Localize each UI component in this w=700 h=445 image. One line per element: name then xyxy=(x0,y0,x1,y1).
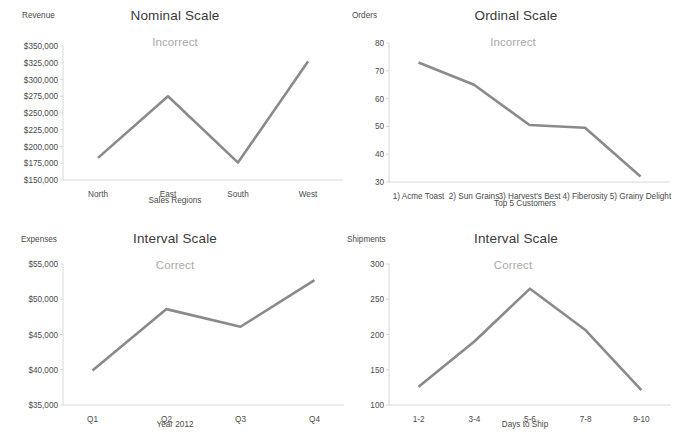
y-axis-tick-label: 80 xyxy=(356,39,384,48)
y-axis-tick-label: $55,000 xyxy=(6,260,58,269)
y-axis-tick-label: 30 xyxy=(356,178,384,187)
x-axis-tick-label: East xyxy=(160,190,176,199)
y-axis-tick-label: 50 xyxy=(356,122,384,131)
y-axis-tick-label: $300,000 xyxy=(6,75,58,84)
x-axis-tick-label: 1) Acme Toast xyxy=(393,192,445,201)
x-axis-tick-label: 4) Fiberosity xyxy=(562,192,607,201)
y-axis-tick-label: 70 xyxy=(356,66,384,75)
chart-svg xyxy=(63,264,344,405)
y-axis-tick-label: $250,000 xyxy=(6,109,58,118)
x-axis-tick-label: 5) Grainy Delight xyxy=(610,192,671,201)
x-axis-tick-label: 3) Harvest's Best xyxy=(498,192,560,201)
y-axis-tick-label: $175,000 xyxy=(6,159,58,168)
chart-panel-nominal-scale: Nominal Scale Incorrect Revenue Sales Re… xyxy=(0,0,350,222)
x-axis-tick-label: North xyxy=(88,190,108,199)
x-axis-tick-label: Q4 xyxy=(309,415,320,424)
x-axis-title: Year 2012 xyxy=(0,420,350,429)
y-axis-tick-label: 100 xyxy=(356,401,384,410)
chart-svg xyxy=(389,264,671,405)
chart-title: Interval Scale xyxy=(332,231,700,246)
x-axis-tick-label: South xyxy=(227,190,248,199)
chart-title: Ordinal Scale xyxy=(332,8,700,23)
y-axis-tick-label: $50,000 xyxy=(6,295,58,304)
y-axis-tick-label: $225,000 xyxy=(6,125,58,134)
x-axis-tick-label: West xyxy=(299,190,318,199)
chart-svg xyxy=(63,46,343,180)
x-axis-tick-label: 5-6 xyxy=(524,415,536,424)
x-axis-tick-label: 9-10 xyxy=(633,415,649,424)
data-series-line xyxy=(93,280,315,370)
y-axis-tick-label: $35,000 xyxy=(6,401,58,410)
y-axis-title: Shipments xyxy=(347,235,386,244)
x-axis-tick-label: 2) Sun Grains xyxy=(449,192,500,201)
y-axis-tick-label: 150 xyxy=(356,365,384,374)
y-axis-tick-label: 300 xyxy=(356,260,384,269)
plot-area xyxy=(389,43,670,182)
y-axis-tick-label: 250 xyxy=(356,295,384,304)
data-series-line xyxy=(98,61,308,162)
plot-area xyxy=(389,264,671,405)
y-axis-tick-label: $325,000 xyxy=(6,58,58,67)
y-axis-title: Expenses xyxy=(21,235,57,244)
x-axis-tick-label: 7-8 xyxy=(580,415,592,424)
chart-svg xyxy=(389,43,670,182)
y-axis-tick-label: $150,000 xyxy=(6,176,58,185)
y-axis-tick-label: $45,000 xyxy=(6,330,58,339)
y-axis-tick-label: 60 xyxy=(356,94,384,103)
data-series-line xyxy=(419,62,641,176)
y-axis-tick-label: $200,000 xyxy=(6,142,58,151)
chart-grid: Nominal Scale Incorrect Revenue Sales Re… xyxy=(0,0,700,445)
chart-panel-ordinal-scale: Ordinal Scale Incorrect Orders Top 5 Cus… xyxy=(350,0,700,222)
y-axis-title: Orders xyxy=(352,11,377,20)
x-axis-tick-label: Q1 xyxy=(87,415,98,424)
chart-panel-interval-scale-shipments: Interval Scale Correct Shipments Days to… xyxy=(350,223,700,445)
y-axis-tick-label: 40 xyxy=(356,150,384,159)
y-axis-tick-label: 200 xyxy=(356,330,384,339)
y-axis-title: Revenue xyxy=(22,11,55,20)
y-axis-tick-label: $350,000 xyxy=(6,42,58,51)
plot-area xyxy=(63,264,344,405)
plot-area xyxy=(63,46,343,180)
x-axis-tick-label: Q3 xyxy=(235,415,246,424)
x-axis-tick-label: 3-4 xyxy=(468,415,480,424)
y-axis-tick-label: $40,000 xyxy=(6,365,58,374)
data-series-line xyxy=(419,289,642,391)
chart-panel-interval-scale-expenses: Interval Scale Correct Expenses Year 201… xyxy=(0,223,350,445)
y-axis-tick-label: $275,000 xyxy=(6,92,58,101)
x-axis-tick-label: Q2 xyxy=(161,415,172,424)
x-axis-tick-label: 1-2 xyxy=(413,415,425,424)
